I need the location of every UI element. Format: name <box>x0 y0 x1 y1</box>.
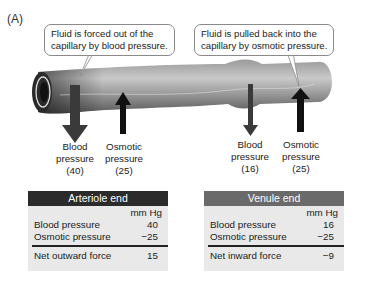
table-row: Blood pressure16 <box>204 219 344 231</box>
table-row: Osmotic pressure−25 <box>204 231 344 243</box>
net-force-row: Net outward force15 <box>28 250 168 262</box>
arrow-up-arteriole-osmotic-icon <box>115 92 131 134</box>
venule-table-title: Venule end <box>204 191 344 206</box>
label-arteriole-blood-pressure: Blood pressure (40) <box>50 141 100 177</box>
venule-end-table: Venule end mm Hg Blood pressure16 Osmoti… <box>204 191 344 271</box>
table-row: Blood pressure40 <box>28 219 168 231</box>
units-label: mm Hg <box>204 206 344 219</box>
divider <box>32 245 168 247</box>
net-force-row: Net inward force−9 <box>204 250 344 262</box>
table-row: Osmotic pressure−25 <box>28 231 168 243</box>
arrow-down-venule-blood-icon <box>243 84 258 136</box>
label-venule-blood-pressure: Blood pressure (16) <box>225 139 275 175</box>
arteriole-table-title: Arteriole end <box>28 191 168 206</box>
label-arteriole-osmotic-pressure: Osmotic pressure (25) <box>98 141 150 177</box>
arrow-up-venule-osmotic-icon <box>291 88 310 132</box>
units-label: mm Hg <box>28 206 168 219</box>
label-venule-osmotic-pressure: Osmotic pressure (25) <box>275 139 327 175</box>
arrow-down-arteriole-blood-icon <box>62 85 88 143</box>
divider <box>208 245 344 247</box>
arteriole-end-table: Arteriole end mm Hg Blood pressure40 Osm… <box>28 191 168 271</box>
